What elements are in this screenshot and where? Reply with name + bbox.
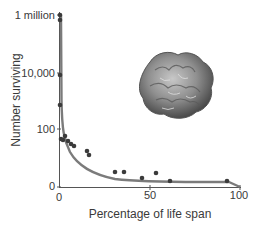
- data-point: [154, 171, 159, 176]
- data-point: [85, 149, 90, 154]
- data-point: [72, 144, 77, 149]
- x-tick-label-100: 100: [230, 189, 248, 201]
- y-tick-label-1million: 1 million: [15, 9, 55, 21]
- data-point: [61, 138, 66, 143]
- x-tick-label-50: 50: [144, 189, 156, 201]
- x-axis-title: Percentage of life span: [89, 207, 212, 221]
- data-point: [113, 170, 118, 175]
- x-tick-label-0: 0: [56, 191, 62, 203]
- survivorship-chart: 1 million 10,000 100 0 0 50 100 Percenta…: [0, 0, 261, 225]
- data-point: [168, 179, 173, 184]
- data-point: [58, 73, 63, 78]
- y-tick-label-0: 0: [49, 180, 55, 192]
- data-point: [140, 176, 145, 181]
- data-point: [58, 18, 63, 23]
- y-axis-title: Number surviving: [9, 53, 23, 146]
- data-point: [58, 13, 63, 18]
- oyster-illustration: [139, 52, 213, 118]
- data-point: [58, 103, 63, 108]
- y-tick-label-100: 100: [37, 123, 55, 135]
- data-point: [87, 153, 92, 158]
- data-point: [122, 170, 127, 175]
- data-point: [63, 134, 68, 139]
- y-tick-label-10000: 10,000: [21, 67, 55, 79]
- data-point: [225, 179, 230, 184]
